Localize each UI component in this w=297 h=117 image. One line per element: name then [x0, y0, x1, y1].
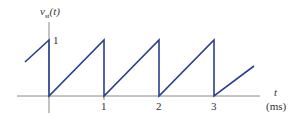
x-tick-3-label: 3	[211, 101, 217, 112]
x-axis-label: t	[274, 87, 277, 98]
sawtooth-wave	[25, 40, 254, 96]
y-tick-1-label: 1	[53, 35, 59, 46]
x-tick-2-label: 2	[156, 101, 162, 112]
x-unit-label: (ms)	[266, 101, 286, 112]
sawtooth-diagram: vst(t) 1 1 2 3 t (ms)	[0, 0, 297, 117]
y-axis-label: vst(t)	[40, 6, 60, 20]
x-tick-1-label: 1	[101, 101, 107, 112]
